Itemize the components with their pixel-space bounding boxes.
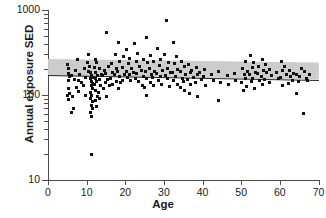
data-point: [93, 83, 96, 86]
data-point: [77, 90, 80, 93]
x-tick-label-40: 40: [188, 186, 218, 198]
data-point: [144, 70, 147, 73]
data-point: [105, 95, 108, 98]
data-point: [70, 74, 73, 77]
data-point: [104, 81, 107, 84]
data-point: [98, 78, 101, 81]
data-point: [109, 77, 112, 80]
data-point: [95, 105, 98, 108]
data-point: [270, 74, 273, 77]
data-point: [264, 63, 267, 66]
data-point: [283, 65, 286, 68]
data-point: [78, 73, 81, 76]
data-point: [140, 69, 143, 72]
data-point: [244, 77, 247, 80]
x-tick-label-20: 20: [110, 186, 140, 198]
data-point: [166, 77, 169, 80]
data-point: [156, 47, 159, 50]
x-axis-line: [48, 180, 319, 181]
data-point: [212, 79, 215, 82]
data-point: [210, 73, 213, 76]
data-point: [190, 69, 193, 72]
data-point: [241, 67, 244, 70]
data-point: [84, 76, 87, 79]
data-point: [116, 70, 119, 73]
data-point: [149, 81, 152, 84]
data-point: [125, 48, 128, 51]
data-point: [172, 41, 175, 44]
x-tick-label-0: 0: [33, 186, 63, 198]
data-point: [196, 95, 199, 98]
data-point: [173, 62, 176, 65]
data-point: [74, 69, 77, 72]
data-point: [261, 83, 264, 86]
data-point: [66, 63, 69, 66]
data-point: [253, 87, 256, 90]
data-point: [67, 67, 70, 70]
data-point: [163, 53, 166, 56]
data-point: [110, 62, 113, 65]
data-point: [258, 79, 261, 82]
data-point: [165, 19, 168, 22]
x-tick-50: [241, 180, 242, 185]
data-point: [298, 75, 301, 78]
data-point: [182, 80, 185, 83]
data-point: [145, 36, 148, 39]
data-point: [122, 55, 125, 58]
data-point: [88, 65, 91, 68]
plot-area: [48, 10, 318, 180]
data-point: [95, 61, 98, 64]
data-point: [83, 67, 86, 70]
data-point: [217, 70, 220, 73]
data-point: [133, 42, 136, 45]
data-point: [90, 115, 93, 118]
x-tick-40: [203, 180, 204, 185]
data-point: [160, 83, 163, 86]
data-point: [295, 92, 298, 95]
data-point: [275, 71, 278, 74]
data-point: [118, 60, 121, 63]
data-point: [135, 60, 138, 63]
data-point: [70, 111, 73, 114]
data-point: [251, 77, 254, 80]
data-point: [263, 78, 266, 81]
data-point: [234, 79, 237, 82]
x-tick-10: [87, 180, 88, 185]
data-point: [244, 60, 247, 63]
data-point: [172, 79, 175, 82]
data-point: [257, 65, 260, 68]
scatter-chart-figure: Annual exposure SED Age 010203040506070 …: [0, 0, 326, 218]
data-point: [91, 107, 94, 110]
data-point: [308, 73, 311, 76]
x-tick-label-50: 50: [226, 186, 256, 198]
data-point: [167, 61, 170, 64]
data-point: [227, 83, 230, 86]
data-point: [217, 99, 220, 102]
data-point: [166, 67, 169, 70]
data-point: [151, 76, 154, 79]
data-point: [302, 112, 305, 115]
data-point: [114, 53, 117, 56]
data-point: [268, 68, 271, 71]
data-point: [157, 79, 160, 82]
data-point: [188, 92, 191, 95]
data-point: [86, 61, 89, 64]
data-point: [152, 84, 155, 87]
data-point: [143, 86, 146, 89]
data-point: [183, 89, 186, 92]
data-point: [94, 99, 97, 102]
data-point: [97, 91, 100, 94]
data-point: [89, 111, 92, 114]
data-point: [107, 65, 110, 68]
data-point: [128, 57, 131, 60]
x-tick-60: [280, 180, 281, 185]
data-point: [176, 83, 179, 86]
data-point: [279, 76, 282, 79]
data-point: [226, 74, 229, 77]
data-point: [149, 54, 152, 57]
data-point: [179, 86, 182, 89]
x-tick-70: [319, 180, 320, 185]
data-point: [127, 62, 130, 65]
data-point: [245, 85, 248, 88]
data-point: [168, 85, 171, 88]
